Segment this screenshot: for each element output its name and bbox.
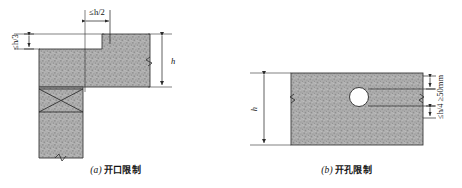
caption-panel-b: (b)开孔限制 — [231, 163, 462, 176]
hole-limit-drawing: h ≤h/4 ≥50mm — [231, 0, 462, 188]
caption-a-text: 开口限制 — [102, 165, 141, 175]
opening-limit-drawing: ≤h/2 ≤h/3 h — [0, 0, 231, 188]
concrete-member-shape — [39, 34, 150, 158]
circular-hole — [350, 88, 369, 107]
beam-body — [291, 73, 423, 145]
caption-b-index: (b) — [321, 165, 333, 175]
caption-a-index: (a) — [90, 165, 102, 175]
right-height-label: h — [171, 56, 175, 66]
vertical-arm — [39, 87, 83, 158]
figure-root: ≤h/2 ≤h/3 h (a)开口限制 — [0, 0, 462, 188]
horizontal-arm — [39, 34, 150, 87]
left-depth-dimension — [14, 34, 104, 49]
left-depth-label: ≤h/3 — [10, 34, 20, 50]
right-height-dimension — [148, 34, 172, 87]
panel-hole-limit: h ≤h/4 ≥50mm (b)开孔限制 — [231, 0, 462, 188]
caption-b-text: 开孔限制 — [333, 165, 372, 175]
caption-panel-a: (a)开口限制 — [0, 163, 231, 176]
right-hole-clearance-dimension — [426, 78, 435, 116]
beam-rectangle — [291, 73, 423, 145]
left-height-label: h — [249, 107, 259, 111]
right-limits-label: ≤h/4 ≥50mm — [435, 75, 445, 119]
panel-opening-limit: ≤h/2 ≤h/3 h (a)开口限制 — [0, 0, 231, 188]
top-width-label: ≤h/2 — [89, 7, 105, 17]
